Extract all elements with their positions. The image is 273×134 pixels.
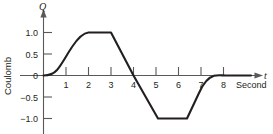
y-unit-label: Coulomb [2, 57, 13, 95]
y-tick-label-neg1p0: −1.0 [20, 114, 38, 124]
y-tick-label-0p5: 0.5 [25, 50, 38, 60]
y-axis [40, 9, 46, 134]
y-tick-label-0: 0 [33, 71, 38, 81]
x-tick-label-4: 4 [131, 80, 136, 90]
x-tick-marks [66, 67, 224, 76]
x-tick-label-8: 8 [221, 80, 226, 90]
y-axis-name: Q [39, 1, 47, 12]
x-tick-label-3: 3 [108, 80, 113, 90]
x-tick-label-5: 5 [153, 80, 158, 90]
x-tick-label-1: 1 [63, 80, 68, 90]
x-axis-arrowhead [255, 72, 264, 78]
y-tick-label-1p0: 1.0 [25, 28, 38, 38]
x-unit-label: Second [236, 80, 267, 90]
y-tick-label-neg0p5: −0.5 [20, 93, 38, 103]
x-tick-label-6: 6 [176, 80, 181, 90]
x-tick-label-2: 2 [86, 80, 91, 90]
chart-canvas: 1.0 0.5 0 −0.5 −1.0 1 2 3 4 5 6 7 8 Q t … [0, 0, 273, 134]
charge-vs-time-chart: 1.0 0.5 0 −0.5 −1.0 1 2 3 4 5 6 7 8 Q t … [0, 0, 273, 134]
